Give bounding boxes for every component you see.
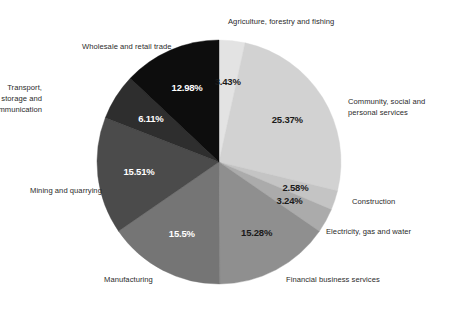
pie-slice-label: Mining and quarrying (30, 185, 102, 196)
pie-chart-figure: 3.43%25.37%2.58%3.24%15.28%15.5%15.51%6.… (0, 0, 450, 316)
pie-slice-value: 25.37% (272, 114, 304, 125)
pie-slice-value: 6.11% (138, 113, 164, 124)
pie-slice-value: 2.58% (282, 182, 309, 193)
pie-slice-label: Manufacturing (104, 274, 153, 285)
pie-slice-value: 12.98% (172, 82, 204, 93)
pie-slice-value: 15.5% (169, 228, 196, 239)
pie-slice-label: Agriculture, forestry and fishing (228, 16, 334, 27)
pie-slice-label: Financial business services (286, 274, 380, 285)
pie-slice-label: Transport, storage and communication (0, 82, 42, 115)
pie-slice-value: 3.43% (215, 76, 242, 87)
pie-slice-label: Community, social and personal services (348, 96, 425, 118)
pie-slice-label: Wholesale and retail trade (82, 41, 172, 52)
pie-slice-value: 15.28% (241, 227, 273, 238)
pie-slice-value: 3.24% (277, 195, 304, 206)
pie-slice-label: Construction (352, 196, 395, 207)
pie-slice-label: Electricity, gas and water (326, 226, 411, 237)
pie-slice-value: 15.51% (124, 166, 156, 177)
pie-chart-canvas: 3.43%25.37%2.58%3.24%15.28%15.5%15.51%6.… (0, 0, 450, 316)
